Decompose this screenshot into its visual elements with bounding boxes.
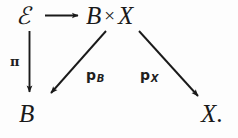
p-subscript-x: X xyxy=(150,73,159,84)
node-b-factor: B xyxy=(86,2,101,29)
p-base: p xyxy=(140,67,150,83)
commutative-diagram: ℰ B×X B X. π pB pX xyxy=(0,0,238,138)
node-script-z: ℰ xyxy=(16,4,31,28)
node-x-factor: X xyxy=(118,2,133,29)
node-b-times-x: B×X xyxy=(86,3,133,28)
times-operator-icon: × xyxy=(101,5,118,26)
arrow-label-p-x: pX xyxy=(140,68,159,84)
arrow-label-pi: π xyxy=(10,55,20,68)
node-x-bottom: X. xyxy=(201,101,223,126)
trailing-period: . xyxy=(216,100,222,127)
arrow-bx-to-x xyxy=(139,31,198,96)
p-base: p xyxy=(86,67,96,83)
node-b-bottom: B xyxy=(19,101,34,126)
p-subscript-b: B xyxy=(96,73,104,84)
node-x-bottom-letter: X xyxy=(201,100,216,127)
arrow-label-p-b: pB xyxy=(86,68,105,84)
